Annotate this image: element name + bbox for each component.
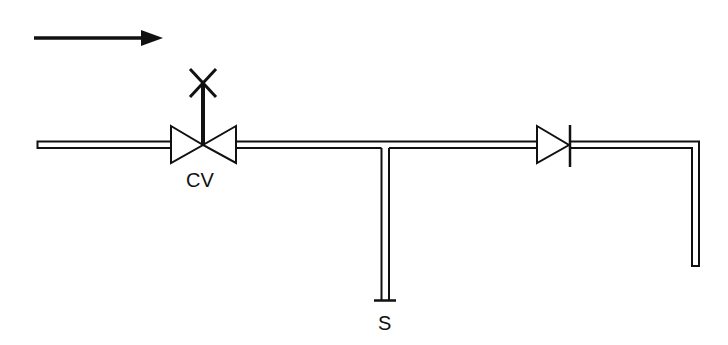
inlet-pipe (38, 142, 172, 149)
piping-diagram (0, 0, 728, 345)
control-valve-icon (171, 69, 236, 163)
outlet-pipe (570, 142, 699, 267)
flow-arrow-icon (34, 30, 163, 46)
sample-point-label: S (378, 313, 391, 333)
check-valve-icon (537, 125, 570, 167)
sample-branch-pipe (374, 148, 396, 301)
main-pipe (236, 142, 537, 149)
control-valve-label: CV (186, 170, 214, 190)
